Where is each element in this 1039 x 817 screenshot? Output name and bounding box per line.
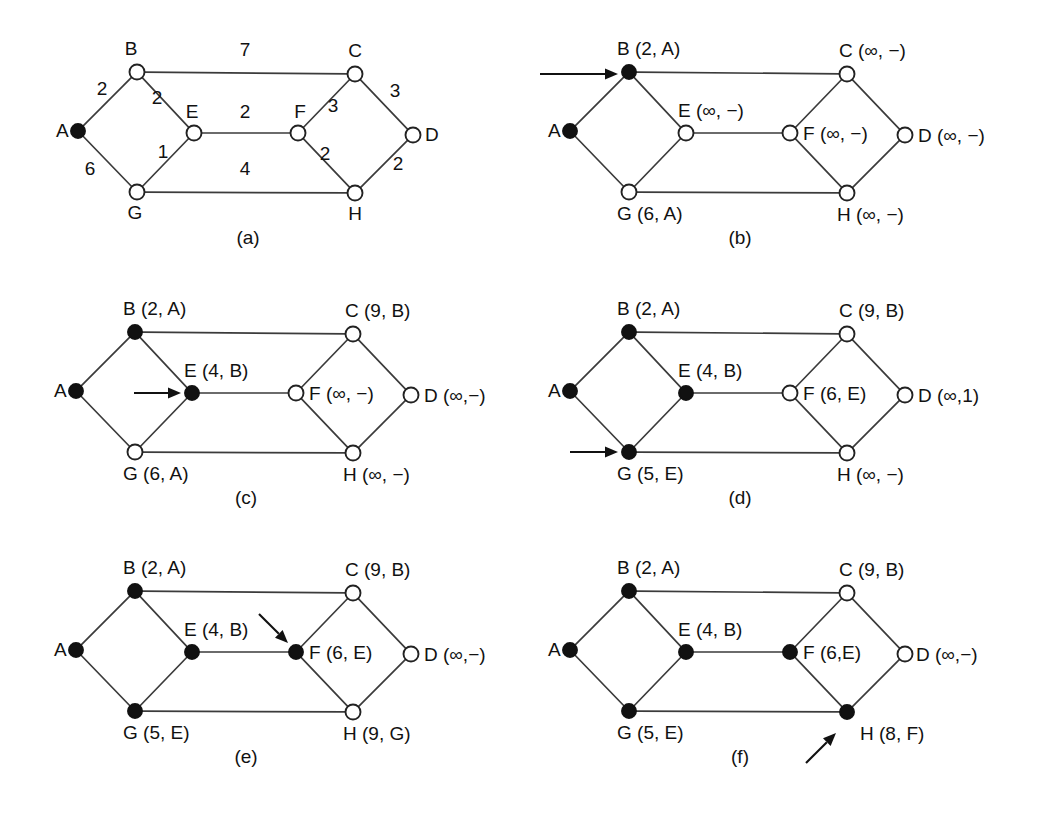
graph-node-D-tentative[interactable] [404,388,419,403]
graph-node-G-permanent[interactable] [622,445,636,459]
node-label-B: B [125,38,138,59]
node-label-B: B (2, A) [617,557,680,578]
node-label-G: G [128,202,143,223]
node-label-B: B (2, A) [617,38,680,59]
working-node-arrow [134,388,181,399]
graph-node-G-permanent[interactable] [622,704,636,718]
graph-node-E-tentative[interactable] [187,126,202,141]
node-label-D: D (∞,−) [424,644,486,665]
graph-node-H-tentative[interactable] [840,186,855,201]
graph-node-C-tentative[interactable] [840,67,855,82]
graph-node-G-tentative[interactable] [130,185,145,200]
graph-edge-EG [634,398,681,447]
graph-node-A-permanent[interactable] [563,124,577,138]
graph-node-G-permanent[interactable] [128,704,142,718]
edge-weight-label: 2 [320,143,331,164]
graph-node-E-permanent[interactable] [679,386,693,400]
edge-weight-label: 2 [240,101,251,122]
graph-node-F-permanent[interactable] [289,645,303,659]
edge-weight-label: 1 [158,141,169,162]
graph-node-H-tentative[interactable] [840,446,855,461]
graph-node-H-permanent[interactable] [840,705,854,719]
graph-node-E-tentative[interactable] [679,126,694,141]
graph-edge-CD [360,79,408,130]
node-label-F: F [294,101,306,122]
node-label-G: G (5, E) [123,722,190,743]
graph-canvas: 27223361422ABECFDGH(a)AB (2, A)E (∞, −)C… [0,0,1039,817]
graph-node-A-permanent[interactable] [563,384,577,398]
graph-node-B-permanent[interactable] [128,325,142,339]
graph-node-B-permanent[interactable] [128,584,142,598]
edge-weight-label: 2 [393,153,404,174]
node-label-C: C (9, B) [345,300,410,321]
graph-node-C-tentative[interactable] [346,327,361,342]
panel-caption-f: (f) [731,746,749,767]
node-label-H: H (∞, −) [837,204,904,225]
panel-caption-c: (c) [235,487,257,508]
graph-edge-AG [81,655,130,706]
graph-edge-BE [140,337,187,388]
node-label-D: D (∞,1) [918,385,979,406]
node-label-D: D [425,124,439,145]
node-label-H: H (∞, −) [837,464,904,485]
graph-node-C-tentative[interactable] [840,327,855,342]
arrow-head [168,388,181,399]
graph-node-C-tentative[interactable] [346,586,361,601]
graph-edge-FH [301,398,348,448]
node-label-F: F (6,E) [803,642,861,663]
graph-node-H-tentative[interactable] [346,446,361,461]
graph-node-B-permanent[interactable] [622,584,636,598]
graph-node-D-tentative[interactable] [898,647,913,662]
graph-node-A-permanent[interactable] [563,643,577,657]
graph-node-E-permanent[interactable] [185,386,199,400]
graph-node-B-permanent[interactable] [622,325,636,339]
graph-edge-BC [144,72,348,74]
node-label-F: F (6, E) [309,642,372,663]
graph-node-C-tentative[interactable] [840,586,855,601]
graph-node-D-tentative[interactable] [406,128,421,143]
graph-edge-HD [852,659,900,707]
graph-node-A-permanent[interactable] [69,384,83,398]
arrow-shaft [806,742,827,763]
graph-edge-GH [142,452,346,453]
graph-node-F-tentative[interactable] [783,386,798,401]
graph-node-E-permanent[interactable] [185,645,199,659]
graph-edge-HD [852,140,900,188]
working-node-arrow [540,69,618,80]
graph-node-E-permanent[interactable] [679,645,693,659]
graph-node-F-permanent[interactable] [783,645,797,659]
edge-weight-label: 3 [328,95,339,116]
graph-node-D-tentative[interactable] [898,388,913,403]
graph-node-B-permanent[interactable] [622,65,636,79]
graph-node-G-tentative[interactable] [622,185,637,200]
graph-node-F-tentative[interactable] [783,126,798,141]
graph-node-H-tentative[interactable] [348,186,363,201]
node-label-B: B (2, A) [123,298,186,319]
edge-weight-label: 2 [97,78,108,99]
node-label-C: C (9, B) [839,300,904,321]
panel-caption-a: (a) [236,227,259,248]
node-label-H: H [348,203,362,224]
panel-f: AB (2, A)E (4, B)C (9, B)F (6,E)D (∞,−)G… [548,557,978,767]
node-label-E: E [186,101,199,122]
working-node-arrow [259,614,288,643]
graph-node-F-tentative[interactable] [291,126,306,141]
graph-node-G-tentative[interactable] [128,445,143,460]
graph-node-D-tentative[interactable] [898,128,913,143]
graph-node-H-tentative[interactable] [346,705,361,720]
graph-edge-FH [795,398,842,448]
graph-edge-AG [81,396,130,447]
graph-edge-BC [636,591,840,593]
graph-node-A-permanent[interactable] [71,124,85,138]
graph-node-B-tentative[interactable] [130,65,145,80]
graph-edge-FH [795,657,842,707]
graph-node-C-tentative[interactable] [348,67,363,82]
graph-edge-BE [142,77,189,128]
graph-edge-BE [634,337,681,388]
graph-node-A-permanent[interactable] [69,643,83,657]
graph-node-F-tentative[interactable] [289,386,304,401]
graph-node-D-tentative[interactable] [404,647,419,662]
node-label-H: H (∞, −) [343,464,410,485]
graph-edge-GH [636,192,840,193]
edge-weight-label: 3 [390,80,401,101]
